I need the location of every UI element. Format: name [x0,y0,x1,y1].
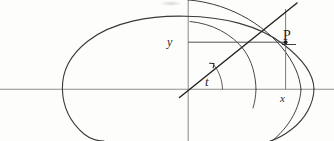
angle-t-label: t [205,74,209,90]
y-coordinate-label: y [167,35,172,50]
major-circle-arc [188,0,301,141]
parameter-ray [180,3,298,98]
ellipse-construction-figure [0,0,334,141]
point-p-label: P [283,28,291,44]
diagram-canvas: y x t P [0,0,334,141]
minor-circle-arc [190,22,256,109]
x-coordinate-label: x [280,92,285,104]
